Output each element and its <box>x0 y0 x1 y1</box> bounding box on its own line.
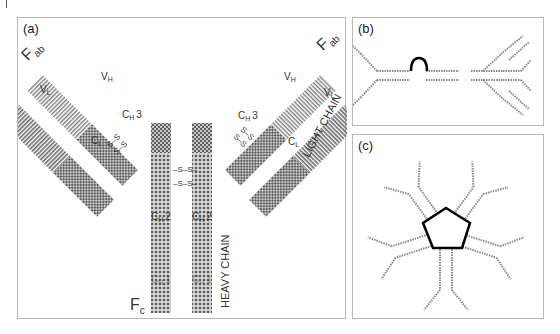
dimeric-antibody-diagram <box>353 18 545 127</box>
cl-label-right: CL <box>288 136 299 148</box>
svg-text:–S–S–: –S–S– <box>173 165 198 174</box>
j-chain-link <box>411 58 427 71</box>
vh-label-right: VH <box>284 71 296 83</box>
fab-label-left: Fab <box>18 36 47 65</box>
pentamer-core-pentagon <box>423 208 470 248</box>
ch3-label-left: CH3 <box>122 109 142 121</box>
fc-heavy-chain-left <box>151 143 171 313</box>
corner-tick-mark <box>6 0 7 8</box>
fab-label-right: Fab <box>313 26 342 55</box>
panel-a-antibody-structure: (a) <box>17 17 346 319</box>
svg-text:–S–S–: –S–S– <box>173 179 198 188</box>
pentameric-antibody-diagram <box>353 135 545 320</box>
antibody-diagram: –S–S– –S–S– S–S S–S S–S S–S Fab VL VH CH… <box>18 18 347 320</box>
panel-c-pentamer: (c) <box>352 134 544 319</box>
heavy-chain-label: HEAVY CHAIN <box>219 234 231 308</box>
ch3-label-right: CH3 <box>238 110 258 122</box>
fc-label: Fc <box>130 296 145 316</box>
panel-b-dimer: (b) <box>352 17 544 126</box>
vh-label-left: VH <box>101 71 113 83</box>
